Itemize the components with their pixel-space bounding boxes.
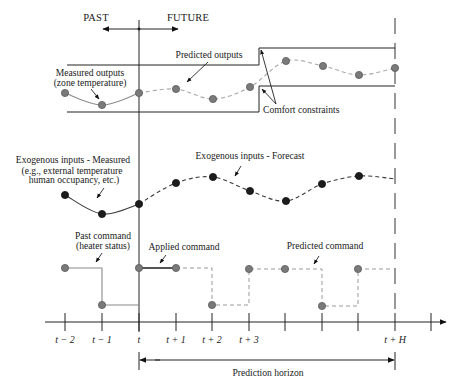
past-command-line <box>65 268 139 305</box>
exo-measured-pointer-icon <box>97 188 104 198</box>
exo-forecast-label: Exogenous inputs - Forecast <box>196 150 305 161</box>
output-point <box>355 71 362 78</box>
predicted-outputs-label: Predicted outputs <box>176 49 243 60</box>
measured-outputs-sublabel: (zone temperature) <box>54 77 127 89</box>
output-point <box>98 101 105 108</box>
prediction-horizon-label: Prediction horizon <box>232 367 303 378</box>
command-point <box>208 301 215 308</box>
output-point <box>135 89 142 96</box>
predicted-command-pointer-icon <box>314 256 319 264</box>
output-point <box>209 95 216 102</box>
measured-outputs-pointer-icon <box>91 89 99 99</box>
past-command-pointer-icon <box>96 253 102 262</box>
future-label: FUTURE <box>167 12 209 23</box>
exogenous-point <box>172 179 179 186</box>
axis-tick-label: t + 1 <box>166 334 186 345</box>
exogenous-point <box>318 180 325 187</box>
exo-forecast-pointer-icon <box>235 166 241 176</box>
axis-tick-labels: t − 2t − 1tt + 1t + 2t + 3t + H <box>55 334 406 345</box>
exogenous-point <box>355 172 362 179</box>
command-points <box>61 264 361 309</box>
command-point <box>98 301 105 308</box>
applied-command-label: Applied command <box>148 241 219 252</box>
applied-command-pointer-icon <box>160 255 166 263</box>
exo-measured-label: Exogenous inputs - Measured <box>16 154 131 165</box>
output-point <box>319 62 326 69</box>
exogenous-point <box>246 187 253 194</box>
past-command-sublabel: (heater status) <box>76 240 130 252</box>
predicted-command-label: Predicted command <box>287 240 364 251</box>
command-point <box>354 265 361 272</box>
comfort-constraints-label: Comfort constraints <box>263 104 340 115</box>
exogenous-point <box>61 191 68 198</box>
predicted-outputs-curve <box>139 60 395 99</box>
past-label: PAST <box>83 12 109 23</box>
exogenous-point <box>98 210 105 217</box>
output-point <box>61 89 68 96</box>
axis-tick-label: t <box>138 334 141 345</box>
exo-measured-sublabel-2: human occupancy, etc.) <box>29 174 119 186</box>
axis-tick-label: t − 2 <box>55 334 75 345</box>
output-point <box>246 83 253 90</box>
command-point <box>281 265 288 272</box>
command-point <box>245 265 252 272</box>
exogenous-point <box>209 173 216 180</box>
command-point <box>61 264 68 271</box>
predicted-command-line <box>176 268 393 306</box>
command-point <box>135 264 142 271</box>
exogenous-point <box>135 200 142 207</box>
output-point <box>391 64 398 71</box>
exogenous-point <box>282 197 289 204</box>
output-point <box>172 85 179 92</box>
comfort-constraint-lower <box>67 86 395 112</box>
command-point <box>172 264 179 271</box>
output-point <box>282 57 289 64</box>
mpc-timeline-diagram: PAST FUTURE t − 2t − 1tt + 1t + 2t + 3t … <box>0 0 460 388</box>
axis-tick-label: t + H <box>384 334 407 345</box>
axis-tick-label: t + 3 <box>239 334 259 345</box>
command-point <box>318 302 325 309</box>
axis-tick-label: t − 1 <box>92 334 112 345</box>
axis-tick-label: t + 2 <box>202 334 222 345</box>
